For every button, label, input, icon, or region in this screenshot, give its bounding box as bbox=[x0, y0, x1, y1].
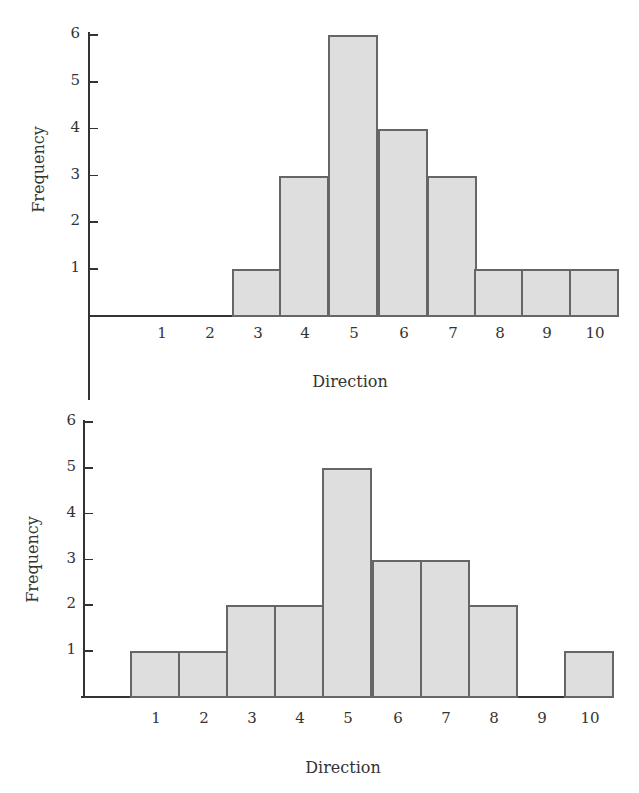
y-tick bbox=[83, 559, 93, 561]
x-tick-label: 6 bbox=[383, 711, 413, 726]
y-tick bbox=[83, 513, 93, 515]
histogram-bar bbox=[274, 605, 324, 698]
x-tick-label: 7 bbox=[431, 711, 461, 726]
histogram-bar bbox=[130, 651, 180, 698]
x-axis-title: Direction bbox=[263, 758, 423, 777]
y-tick-label: 1 bbox=[62, 642, 76, 657]
x-tick-label: 8 bbox=[479, 711, 509, 726]
histogram-bar bbox=[468, 605, 518, 698]
y-tick-label: 6 bbox=[62, 413, 76, 428]
x-tick-label: 1 bbox=[141, 711, 171, 726]
x-tick-label: 10 bbox=[575, 711, 605, 726]
y-tick-label: 2 bbox=[62, 596, 76, 611]
x-tick-label: 4 bbox=[285, 711, 315, 726]
histogram-bottom: 12345612345678910DirectionFrequency bbox=[0, 0, 639, 793]
x-tick-label: 5 bbox=[333, 711, 363, 726]
y-tick-label: 4 bbox=[62, 505, 76, 520]
x-tick-label: 2 bbox=[189, 711, 219, 726]
y-tick-label: 5 bbox=[62, 459, 76, 474]
histogram-bar bbox=[564, 651, 614, 698]
histogram-bar bbox=[226, 605, 276, 698]
histogram-bar bbox=[420, 560, 470, 698]
y-tick bbox=[83, 604, 93, 606]
histogram-bar bbox=[322, 468, 372, 698]
y-axis-title: Frequency bbox=[23, 510, 42, 610]
y-tick bbox=[83, 421, 93, 423]
y-tick bbox=[83, 467, 93, 469]
y-tick bbox=[83, 650, 93, 652]
histogram-bar bbox=[178, 651, 228, 698]
y-tick-label: 3 bbox=[62, 551, 76, 566]
histogram-bar bbox=[372, 560, 422, 698]
x-tick-label: 3 bbox=[237, 711, 267, 726]
x-tick-label: 9 bbox=[527, 711, 557, 726]
